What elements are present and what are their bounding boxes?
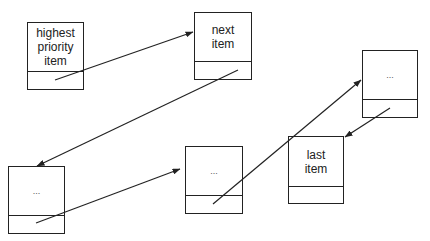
arrow-n2-to-n3 — [37, 70, 238, 166]
arrow-n3-to-n4 — [36, 169, 180, 223]
arrow-n5-to-n6 — [345, 108, 390, 137]
arrow-n1-to-n2 — [55, 32, 193, 80]
arrow-n4-to-n5 — [213, 80, 361, 204]
pointer-arrows — [0, 0, 430, 241]
